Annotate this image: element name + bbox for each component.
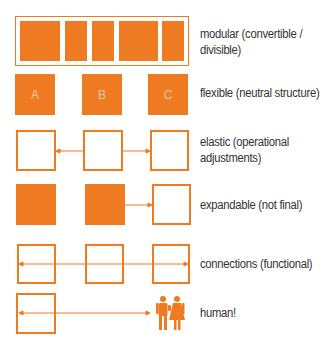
arrowhead-icon: [19, 262, 23, 266]
connector-lines: [0, 0, 329, 348]
arrowhead-icon: [146, 149, 150, 153]
arrowhead-icon: [148, 203, 152, 207]
arrowhead-icon: [146, 311, 150, 315]
arrowhead-icon: [56, 149, 60, 153]
arrowhead-icon: [184, 262, 188, 266]
arrowhead-icon: [19, 311, 23, 315]
people-icon: [156, 296, 185, 330]
